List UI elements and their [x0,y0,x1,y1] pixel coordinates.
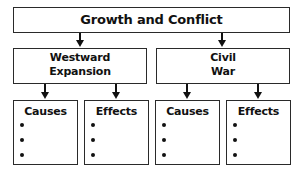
root-node-box: Growth and Conflict [13,7,290,33]
branch-label-line2: War [157,65,289,79]
bullet-list [85,120,148,165]
branch-label-line2: Expansion [14,65,146,79]
bullet-list [227,120,290,165]
leaf-node-civilwar-effects: Effects [226,100,291,165]
bullet-item [19,120,77,135]
bullet-item [232,150,290,165]
bullet-list [14,120,77,165]
bullet-item [232,135,290,150]
branch-node-civil-war: Civil War [156,48,290,84]
branch-node-westward-expansion: Westward Expansion [13,48,147,84]
leaf-label: Effects [227,105,290,118]
leaf-node-westward-effects: Effects [84,100,149,165]
bullet-list [156,120,219,165]
bullet-item [161,135,219,150]
bullet-item [19,135,77,150]
root-node-label: Growth and Conflict [80,12,222,27]
branch-label-line1: Civil [157,51,289,65]
bullet-item [161,150,219,165]
bullet-item [232,120,290,135]
leaf-label: Causes [14,105,77,118]
leaf-label: Effects [85,105,148,118]
bullet-item [161,120,219,135]
leaf-node-westward-causes: Causes [13,100,78,165]
leaf-node-civilwar-causes: Causes [155,100,220,165]
branch-label-line1: Westward [14,51,146,65]
leaf-label: Causes [156,105,219,118]
bullet-item [19,150,77,165]
bullet-item [90,135,148,150]
bullet-item [90,150,148,165]
bullet-item [90,120,148,135]
